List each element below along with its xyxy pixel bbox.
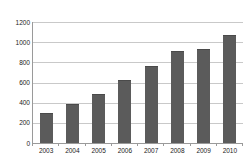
- x-tick-mark: [190, 144, 191, 146]
- gridline: [33, 83, 243, 84]
- gridline: [33, 62, 243, 63]
- bar-chart: 020040060080010001200 200320042005200620…: [0, 0, 250, 163]
- y-tick-label: 800: [2, 59, 30, 66]
- x-tick-label: 2010: [217, 147, 243, 154]
- bar-2010: [223, 35, 236, 143]
- bar-2008: [171, 51, 184, 143]
- bar-2003: [40, 113, 53, 143]
- y-tick-label: 600: [2, 79, 30, 86]
- bar-2009: [197, 49, 210, 143]
- x-tick-mark: [58, 144, 59, 146]
- x-tick-label: 2009: [191, 147, 217, 154]
- y-tick-label: 400: [2, 99, 30, 106]
- x-tick-mark: [32, 144, 33, 146]
- y-tick-label: 200: [2, 119, 30, 126]
- x-tick-mark: [163, 144, 164, 146]
- gridline: [33, 123, 243, 124]
- x-tick-mark: [216, 144, 217, 146]
- x-tick-mark: [85, 144, 86, 146]
- x-tick-label: 2004: [59, 147, 85, 154]
- y-tick-label: 1000: [2, 39, 30, 46]
- x-tick-label: 2008: [164, 147, 190, 154]
- y-tick-label: 1200: [2, 19, 30, 26]
- x-tick-mark: [242, 144, 243, 146]
- x-tick-label: 2003: [33, 147, 59, 154]
- bar-2006: [118, 80, 131, 143]
- bar-2007: [145, 66, 158, 143]
- gridline: [33, 22, 243, 23]
- x-tick-label: 2006: [112, 147, 138, 154]
- gridline: [33, 42, 243, 43]
- gridline: [33, 103, 243, 104]
- bar-2004: [66, 104, 79, 143]
- x-tick-mark: [111, 144, 112, 146]
- bar-2005: [92, 94, 105, 143]
- x-tick-label: 2005: [86, 147, 112, 154]
- y-tick-label: 0: [2, 140, 30, 147]
- x-tick-label: 2007: [138, 147, 164, 154]
- x-tick-mark: [137, 144, 138, 146]
